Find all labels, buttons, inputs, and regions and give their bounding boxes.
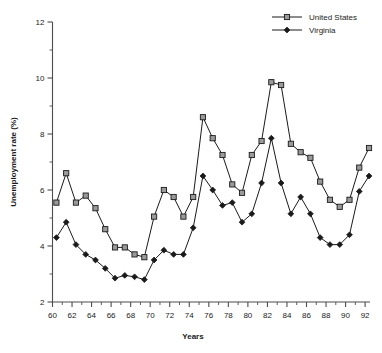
unemployment-rate-line-chart: 24681012 6062646668707274767880828486889… [0,0,382,353]
data-point-marker [298,150,303,155]
data-point-marker [210,136,215,141]
data-point-marker [112,245,117,250]
data-point-marker [318,179,323,184]
y-tick-label: 6 [40,186,45,195]
x-tick-label: 62 [68,311,77,320]
data-point-marker [93,206,98,211]
data-point-marker [181,214,186,219]
data-point-marker [142,255,147,260]
data-point-marker [132,252,137,257]
data-point-marker [327,197,332,202]
data-point-marker [279,82,284,87]
data-point-marker [239,190,244,195]
x-tick-label: 74 [185,311,194,320]
data-point-marker [269,80,274,85]
data-point-marker [64,171,69,176]
legend-marker [284,14,289,19]
data-point-marker [230,182,235,187]
chart-figure: 24681012 6062646668707274767880828486889… [0,0,382,353]
data-point-marker [191,194,196,199]
data-point-marker [347,197,352,202]
legend-label: Virginia [309,26,336,35]
data-point-marker [288,141,293,146]
data-point-marker [357,165,362,170]
data-point-marker [337,204,342,209]
data-point-marker [171,194,176,199]
data-point-marker [122,245,127,250]
data-point-marker [152,214,157,219]
y-tick-label: 4 [40,242,45,251]
y-tick-label: 8 [40,130,45,139]
data-point-marker [103,227,108,232]
data-point-marker [220,152,225,157]
data-point-marker [308,155,313,160]
x-tick-label: 60 [48,311,57,320]
x-tick-label: 78 [224,311,233,320]
data-point-marker [83,193,88,198]
y-tick-label: 12 [36,18,45,27]
data-point-marker [73,200,78,205]
x-tick-label: 88 [322,311,331,320]
data-point-marker [161,187,166,192]
x-tick-label: 90 [341,311,350,320]
chart-background [0,0,382,353]
x-tick-label: 66 [107,311,116,320]
data-point-marker [259,138,264,143]
legend-label: United States [309,13,357,22]
y-tick-label: 10 [36,74,45,83]
data-point-marker [366,145,371,150]
y-axis-title: Unemployment rate (%) [9,117,18,207]
x-tick-label: 68 [126,311,135,320]
x-tick-label: 92 [361,311,370,320]
x-tick-label: 76 [204,311,213,320]
y-tick-label: 2 [40,298,45,307]
data-point-marker [249,152,254,157]
x-tick-label: 72 [165,311,174,320]
x-tick-label: 84 [283,311,292,320]
x-tick-label: 82 [263,311,272,320]
data-point-marker [54,200,59,205]
x-tick-label: 70 [146,311,155,320]
x-tick-label: 80 [243,311,252,320]
data-point-marker [200,115,205,120]
x-axis-title: Years [182,332,204,341]
x-tick-label: 64 [87,311,96,320]
x-tick-label: 86 [302,311,311,320]
